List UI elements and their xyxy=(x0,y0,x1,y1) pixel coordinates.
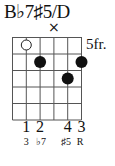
interval-label: 3 xyxy=(24,136,29,147)
interval-label: R xyxy=(77,136,84,147)
fretboard-grid xyxy=(0,0,115,166)
interval-label: ♭7 xyxy=(36,136,46,147)
finger-dot xyxy=(62,73,74,85)
finger-dot xyxy=(34,56,46,68)
open-string-icon xyxy=(21,40,31,50)
finger-dot xyxy=(76,56,88,68)
finger-number: 2 xyxy=(36,118,44,136)
finger-number: 4 xyxy=(64,118,72,136)
finger-number: 1 xyxy=(22,118,30,136)
interval-label: ♯5 xyxy=(61,136,71,147)
finger-number: 3 xyxy=(78,118,86,136)
